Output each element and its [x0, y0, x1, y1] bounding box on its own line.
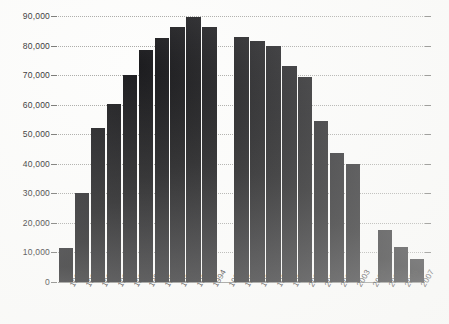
- y-axis-label-50000: 50,000: [23, 129, 50, 139]
- bar-2002: [330, 153, 344, 282]
- y-tick-10000: [51, 252, 57, 253]
- y-tick-0: [51, 282, 57, 283]
- bar-1997: [250, 41, 264, 282]
- bar-1988: [107, 104, 121, 282]
- bar-1989: [123, 75, 137, 282]
- y-tick-right-70000: [425, 75, 431, 76]
- y-tick-right-90000: [425, 16, 431, 17]
- bar-1993: [186, 17, 200, 282]
- bar-chart: 010,00020,00030,00040,00050,00060,00070,…: [0, 0, 449, 324]
- bar-1990: [139, 50, 153, 282]
- y-tick-90000: [51, 16, 57, 17]
- y-tick-50000: [51, 134, 57, 135]
- y-tick-80000: [51, 46, 57, 47]
- y-axis-labels: 010,00020,00030,00040,00050,00060,00070,…: [0, 16, 50, 282]
- bar-1998: [266, 46, 280, 282]
- y-tick-right-30000: [425, 193, 431, 194]
- bar-2001: [314, 121, 328, 282]
- plot-area: [58, 16, 425, 282]
- bar-2003: [346, 164, 360, 282]
- bar-1987: [91, 128, 105, 282]
- bar-1999: [282, 66, 296, 282]
- bar-1992: [170, 27, 184, 282]
- y-tick-40000: [51, 164, 57, 165]
- x-axis-labels: 1985198619871988198919901991199219931994…: [58, 284, 425, 324]
- y-axis-label-10000: 10,000: [23, 247, 50, 257]
- y-tick-20000: [51, 223, 57, 224]
- y-tick-right-10000: [425, 252, 431, 253]
- bar-1996: [234, 37, 248, 282]
- y-axis-label-90000: 90,000: [23, 11, 50, 21]
- y-tick-70000: [51, 75, 57, 76]
- y-axis-label-60000: 60,000: [23, 100, 50, 110]
- y-axis-label-30000: 30,000: [23, 188, 50, 198]
- y-axis-label-80000: 80,000: [23, 41, 50, 51]
- x-axis-line: [58, 282, 425, 283]
- y-tick-right-80000: [425, 46, 431, 47]
- y-axis-label-40000: 40,000: [23, 159, 50, 169]
- bar-1994: [202, 27, 216, 282]
- bar-2000: [298, 77, 312, 282]
- bar-1991: [155, 38, 169, 282]
- y-tick-right-40000: [425, 164, 431, 165]
- y-axis-label-20000: 20,000: [23, 218, 50, 228]
- y-axis-label-0: 0: [45, 277, 50, 287]
- y-tick-60000: [51, 105, 57, 106]
- bar-series: [58, 16, 425, 282]
- y-tick-30000: [51, 193, 57, 194]
- y-tick-right-60000: [425, 105, 431, 106]
- y-tick-right-50000: [425, 134, 431, 135]
- y-axis-label-70000: 70,000: [23, 70, 50, 80]
- y-tick-right-20000: [425, 223, 431, 224]
